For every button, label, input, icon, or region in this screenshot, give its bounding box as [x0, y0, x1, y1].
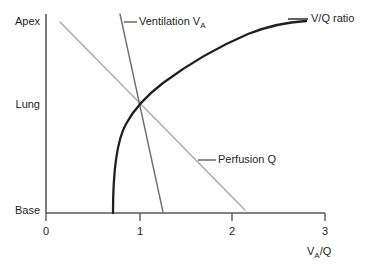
x-axis-title: VA/Q: [307, 246, 331, 260]
vq-ratio-chart: Apex Lung Base 0 1 2 3 VA/Q Ventilation …: [0, 0, 365, 268]
annotation-vq-ratio: V/Q ratio: [311, 13, 354, 24]
annotation-ventilation: Ventilation VA: [139, 16, 206, 30]
x-axis-title-rest: /Q: [320, 245, 332, 257]
y-tick-base: Base: [2, 205, 40, 216]
x-tick-3: 3: [315, 226, 335, 237]
series-ventilation-va: [120, 14, 163, 212]
x-axis-ticks: [46, 213, 325, 221]
annotation-perfusion: Perfusion Q: [218, 154, 276, 165]
series-perfusion-q: [60, 22, 245, 210]
y-tick-lung: Lung: [2, 99, 40, 110]
annotation-ventilation-subscript: A: [200, 21, 205, 30]
x-tick-0: 0: [36, 226, 56, 237]
y-tick-apex: Apex: [2, 16, 40, 27]
annotation-ventilation-main: Ventilation V: [139, 15, 200, 27]
x-tick-2: 2: [222, 226, 242, 237]
x-tick-1: 1: [130, 226, 150, 237]
